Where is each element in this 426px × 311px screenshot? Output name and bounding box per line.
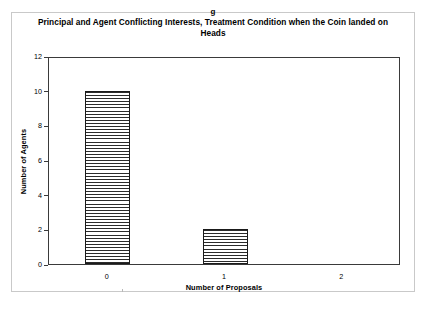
y-tick-label: 4 bbox=[38, 191, 42, 200]
stray-mark bbox=[122, 289, 123, 292]
y-tick-label: 6 bbox=[38, 156, 42, 165]
y-tick-label: 8 bbox=[38, 121, 42, 130]
x-axis-title: Number of Proposals bbox=[48, 283, 400, 292]
bar bbox=[203, 229, 248, 264]
panel-letter: g bbox=[11, 7, 415, 17]
chart-title: Principal and Agent Conflicting Interest… bbox=[11, 17, 415, 39]
bar bbox=[85, 91, 130, 264]
plot-area bbox=[48, 57, 400, 265]
y-tick-label: 10 bbox=[34, 87, 42, 96]
y-tick-label: 0 bbox=[38, 260, 42, 269]
y-axis-ticks: 024681012 bbox=[0, 57, 48, 265]
y-tick-label: 12 bbox=[34, 52, 42, 61]
x-tick-label: 0 bbox=[105, 272, 109, 281]
x-tick-label: 1 bbox=[222, 272, 226, 281]
x-axis-ticks: 012 bbox=[48, 265, 400, 281]
y-tick-label: 2 bbox=[38, 225, 42, 234]
x-tick-label: 2 bbox=[339, 272, 343, 281]
chart-title-block: g Principal and Agent Conflicting Intere… bbox=[11, 7, 415, 39]
plot-inner bbox=[49, 58, 399, 264]
